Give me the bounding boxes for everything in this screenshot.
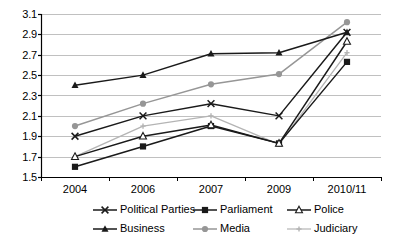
legend-item-judiciary[interactable]: Judiciary	[286, 219, 357, 238]
data-point-marker	[202, 225, 208, 231]
data-point-marker	[296, 226, 301, 231]
legend-label: Media	[219, 223, 250, 234]
legend-label: Judiciary	[313, 223, 357, 234]
legend-label: Police	[313, 204, 344, 215]
x-axis-tick-label: 2004	[63, 184, 87, 195]
data-point-marker	[344, 59, 350, 65]
legend-label: Political Parties	[119, 204, 195, 215]
chart-legend: Political PartiesParliamentPolice Busine…	[0, 200, 394, 244]
chart-canvas	[0, 0, 394, 196]
x-axis-tick-label: 2007	[199, 184, 223, 195]
filled-triangle-icon	[92, 222, 118, 236]
data-point-marker	[202, 206, 208, 212]
legend-item-parliament[interactable]: Parliament	[192, 200, 273, 219]
gridlines	[41, 15, 381, 178]
filled-square-icon	[192, 203, 218, 217]
cross-x-icon	[92, 203, 118, 217]
data-point-marker	[140, 123, 145, 128]
x-axis-tick-labels: 20042006200720092010/11	[0, 176, 394, 198]
hollow-triangle-icon	[286, 203, 312, 217]
legend-item-business[interactable]: Business	[92, 219, 165, 238]
legend-item-political-parties[interactable]: Political Parties	[92, 200, 195, 219]
legend-item-police[interactable]: Police	[286, 200, 344, 219]
data-point-marker	[276, 71, 282, 77]
filled-circle-icon	[192, 222, 218, 236]
x-axis-tick-label: 2009	[267, 184, 291, 195]
data-point-marker	[344, 38, 351, 45]
data-point-marker	[208, 113, 213, 118]
small-plus-icon	[286, 222, 312, 236]
legend-row: BusinessMediaJudiciary	[0, 219, 394, 238]
axis-lines	[38, 14, 382, 181]
data-point-marker	[72, 164, 78, 170]
data-point-marker	[72, 123, 78, 129]
x-axis-tick-label: 2006	[131, 184, 155, 195]
data-point-marker	[208, 81, 214, 87]
legend-row: Political PartiesParliamentPolice	[0, 200, 394, 219]
data-point-marker	[140, 101, 146, 107]
series-media	[72, 19, 350, 129]
data-point-marker	[140, 143, 146, 149]
data-point-marker	[344, 19, 350, 25]
x-axis-tick-label: 2010/11	[328, 184, 367, 195]
plot-area: 3.12.92.72.52.32.11.91.71.5	[0, 0, 394, 196]
legend-label: Business	[119, 223, 165, 234]
legend-label: Parliament	[219, 204, 273, 215]
legend-item-media[interactable]: Media	[192, 219, 250, 238]
line-chart: 3.12.92.72.52.32.11.91.71.5 200420062007…	[0, 0, 394, 244]
